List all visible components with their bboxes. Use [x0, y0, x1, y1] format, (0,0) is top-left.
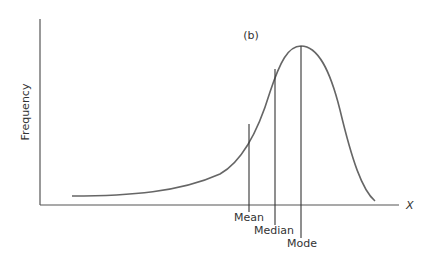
y-axis-label: Frequency [19, 83, 32, 140]
x-axis-label: X [405, 199, 414, 212]
mode-label: Mode [287, 237, 317, 250]
mean-label: Mean [234, 211, 264, 224]
distribution-curve [72, 46, 375, 201]
skewed-distribution-chart: (b) X Frequency Mean Median Mode [0, 0, 434, 262]
median-label: Median [254, 224, 294, 237]
chart-title: (b) [243, 29, 259, 42]
